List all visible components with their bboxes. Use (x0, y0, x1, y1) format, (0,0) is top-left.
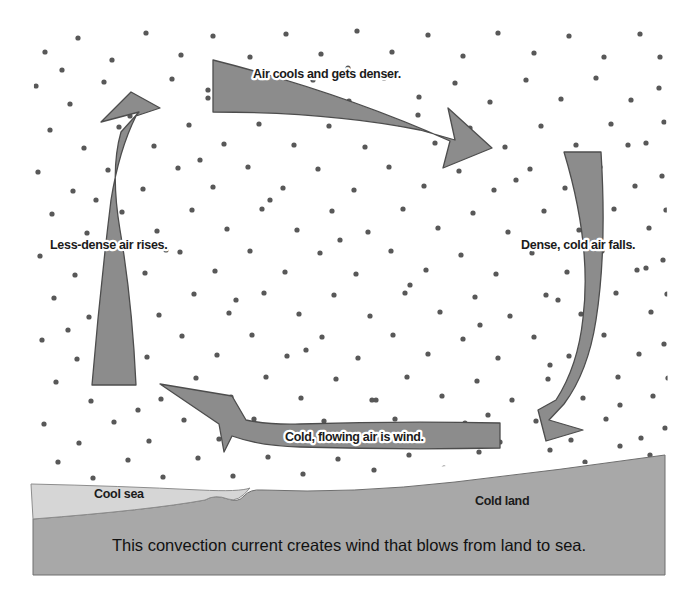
label-air-falls-text: Dense, cold air falls. (521, 238, 635, 252)
label-air-falls: Dense, cold air falls. Dense, cold air f… (521, 238, 635, 252)
label-wind-text: Cold, flowing air is wind. (285, 430, 424, 444)
label-air-rises: Less-dense air rises. Less-dense air ris… (50, 238, 167, 252)
diagram-caption: This convection current creates wind tha… (112, 536, 586, 554)
diagram-canvas: Air cools and gets denser. Air cools and… (0, 0, 698, 599)
label-air-cools-text: Air cools and gets denser. (253, 67, 401, 81)
label-air-cools: Air cools and gets denser. Air cools and… (253, 67, 401, 81)
label-cool-sea: Cool sea (94, 487, 145, 501)
label-air-rises-text: Less-dense air rises. (50, 238, 167, 252)
label-wind: Cold, flowing air is wind. Cold, flowing… (285, 430, 424, 444)
label-cold-land: Cold land (475, 494, 529, 508)
